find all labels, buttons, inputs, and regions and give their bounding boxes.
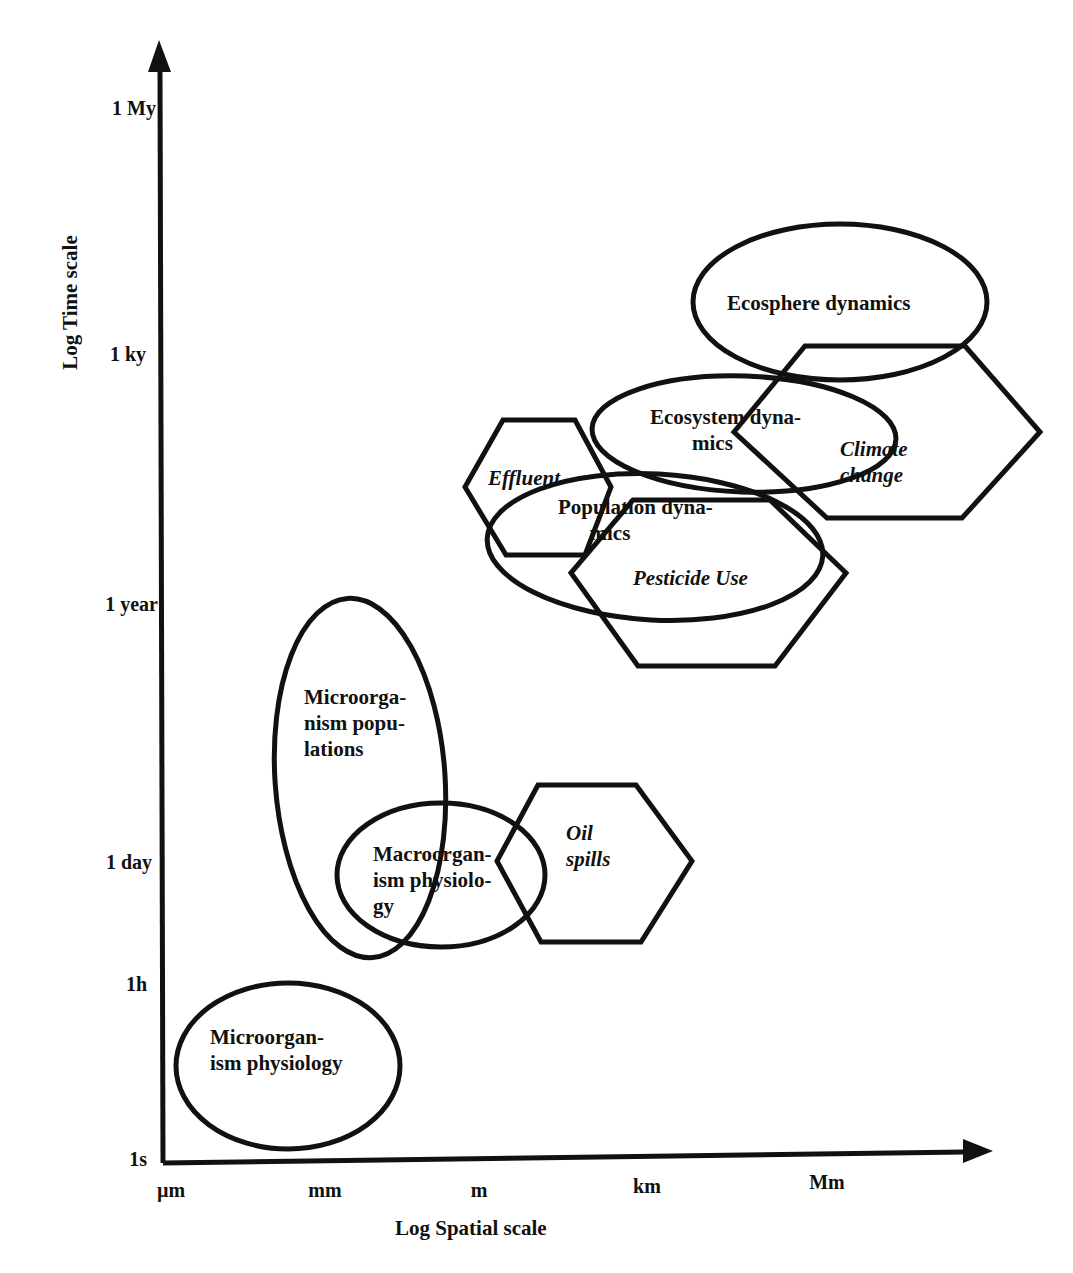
- y-tick-1year: 1 year: [98, 594, 158, 614]
- label-population-dynamics: Population dyna- mics: [558, 494, 713, 546]
- label-oil-spills: Oil spills: [566, 820, 610, 872]
- label-microorganism-populations: Microorga- nism popu- lations: [304, 684, 406, 762]
- label-ecosphere-dynamics: Ecosphere dynamics: [727, 290, 910, 316]
- y-tick-1my: 1 My: [96, 98, 156, 118]
- x-axis-arrowhead-icon: [963, 1139, 993, 1163]
- y-tick-1ky: 1 ky: [86, 344, 146, 364]
- label-microorganism-physiology: Microorgan- ism physiology: [210, 1024, 342, 1076]
- x-tick-Mm: Mm: [787, 1172, 867, 1192]
- label-ecosystem-dynamics: Ecosystem dyna- mics: [650, 404, 801, 456]
- x-tick-km: km: [607, 1176, 687, 1196]
- scale-diagram: [0, 0, 1073, 1273]
- y-axis-line: [160, 70, 163, 1163]
- x-axis-line: [163, 1152, 965, 1163]
- x-axis-title: Log Spatial scale: [395, 1216, 547, 1241]
- y-tick-1s: 1s: [87, 1149, 147, 1169]
- label-climate-change: Climate change: [840, 436, 908, 488]
- label-effluent: Effluent: [488, 465, 560, 491]
- label-pesticide-use: Pesticide Use: [633, 565, 748, 591]
- y-tick-1day: 1 day: [92, 852, 152, 872]
- x-tick-m: m: [439, 1180, 519, 1200]
- label-macroorganism-physiology: Macroorgan- ism physiolo- gy: [373, 841, 492, 919]
- y-axis-arrowhead-icon: [148, 40, 171, 72]
- x-tick-um: µm: [131, 1180, 211, 1200]
- x-tick-mm: mm: [285, 1180, 365, 1200]
- y-tick-1h: 1h: [87, 974, 147, 994]
- y-axis-title: Log Time scale: [58, 223, 83, 383]
